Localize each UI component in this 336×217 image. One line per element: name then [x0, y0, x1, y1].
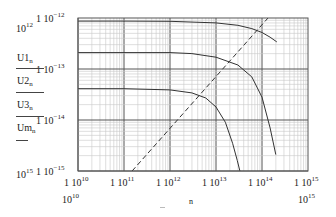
series-u1-n: [78, 21, 277, 42]
y-tick-label: 1 10−12: [36, 14, 64, 24]
x-min-range-label: 1010: [62, 195, 79, 205]
x-tick-label: 1 1012: [156, 178, 181, 188]
series-um-n: [132, 18, 268, 171]
x-tick-label: 1 1011: [110, 178, 134, 188]
x-axis-title-underline: [160, 207, 165, 208]
legend-entry-u3: U3n: [17, 100, 33, 110]
grid-lines: [78, 18, 308, 171]
plot-frame: [78, 18, 308, 171]
y-tick-label: 1 10−15: [36, 167, 64, 177]
x-tick-label: 1 1010: [64, 178, 89, 188]
x-axis-title: n: [189, 197, 193, 206]
x-tick-label: 1 1014: [248, 178, 273, 188]
legend-divider: [16, 68, 44, 69]
data-curves: [78, 18, 277, 171]
legend-entry-u1: U1n: [17, 53, 33, 63]
x-tick-label: 1 1013: [202, 178, 227, 188]
legend-entry-um: Umn: [17, 123, 36, 133]
x-tick-label: 1 1015: [294, 178, 319, 188]
legend-divider: [16, 140, 28, 141]
y-tick-label: 1 10−14: [36, 116, 64, 126]
series-u2-n: [78, 53, 276, 155]
x-max-range-label: 1015: [298, 195, 315, 205]
legend-entry-u2: U2n: [17, 76, 33, 86]
y-max-range-label: 1012: [16, 24, 33, 34]
legend-divider: [16, 116, 44, 117]
legend-divider: [16, 92, 44, 93]
y-min-range-label: 1015: [16, 170, 33, 180]
y-tick-label: 1 10−13: [36, 65, 64, 75]
